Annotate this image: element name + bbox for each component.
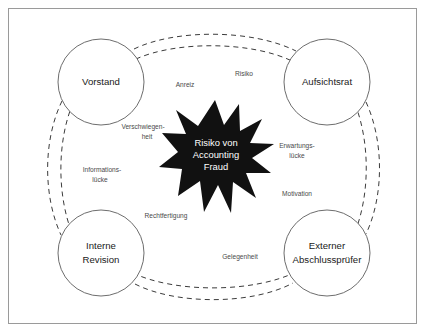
center-label-line2: Accounting [193, 149, 239, 160]
diagram-canvas: Vorstand Aufsichtsrat Interne Revision E… [0, 0, 425, 334]
edge-label-erwartungsluecke-line2: lücke [289, 152, 305, 159]
edge-label-informationsluecke-line2: lücke [92, 176, 108, 183]
node-label-externer-abschlusspruefer-line1: Externer [309, 240, 346, 251]
edge-label-erwartungsluecke-line1: Erwartungs- [279, 142, 315, 150]
node-label-interne-revision-line1: Interne [86, 240, 116, 251]
edge-label-rechtfertigung: Rechtfertigung [145, 212, 188, 220]
node-label-interne-revision-line2: Revision [83, 254, 120, 265]
diagram-figure: Vorstand Aufsichtsrat Interne Revision E… [0, 0, 425, 334]
node-label-externer-abschlusspruefer-line2: Abschlussprüfer [293, 254, 363, 265]
node-label-aufsichtsrat: Aufsichtsrat [302, 76, 352, 87]
edge-label-risiko: Risiko [235, 70, 253, 77]
node-label-vorstand: Vorstand [82, 76, 120, 87]
edge-label-verschwiegenheit-line1: Verschwiegen- [121, 123, 164, 131]
center-label-line1: Risiko von [194, 137, 237, 148]
edge-label-informationsluecke-line1: Informations- [83, 166, 121, 173]
edge-label-anreiz: Anreiz [176, 81, 195, 88]
edge-label-verschwiegenheit-line2: heit [142, 133, 153, 140]
center-label-line3: Fraud [204, 161, 229, 172]
edge-label-motivation: Motivation [282, 190, 312, 197]
edge-label-gelegenheit: Gelegenheit [222, 253, 258, 261]
